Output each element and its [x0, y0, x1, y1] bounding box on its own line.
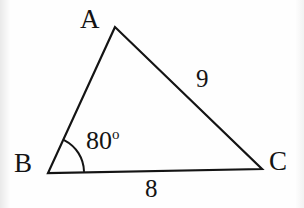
vertex-label-a: A: [80, 6, 100, 33]
triangle-abc-outline: [48, 27, 262, 173]
angle-measure-label-b: 80o: [86, 128, 120, 154]
angle-arc-at-b: [65, 140, 85, 171]
diagram-canvas: A B C 9 8 80o: [0, 0, 304, 208]
angle-value: 80: [86, 126, 112, 155]
vertex-label-b: B: [14, 150, 32, 177]
side-length-label-ac: 9: [196, 66, 209, 91]
degree-symbol-icon: o: [112, 126, 120, 142]
vertex-label-c: C: [269, 148, 287, 175]
side-length-label-bc: 8: [145, 176, 158, 201]
